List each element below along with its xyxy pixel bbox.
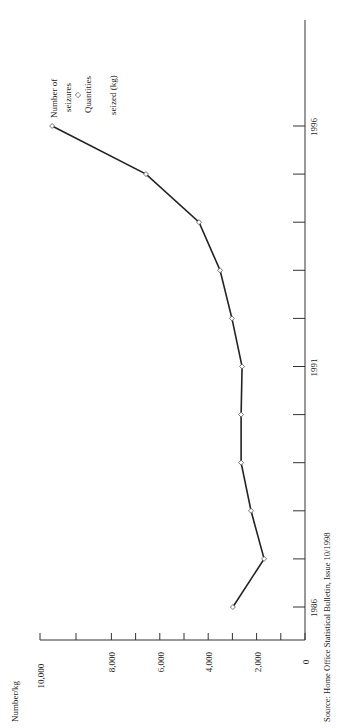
value-tick-label: 4,000	[204, 651, 214, 672]
series-line	[52, 126, 264, 607]
legend-line-3: Quantities	[83, 76, 93, 113]
category-tick-label: 1986	[309, 599, 319, 618]
value-tick-label: 0	[301, 659, 311, 664]
value-tick-label: 2,000	[253, 651, 263, 672]
data-point-diamond	[240, 364, 245, 369]
y-axis-title: Number/kg	[10, 681, 20, 722]
value-tick-label: 10,000	[36, 663, 46, 688]
legend-line-1: Number of	[49, 79, 59, 118]
legend-line-4: seized (kg)	[108, 75, 118, 115]
data-point-diamond	[218, 268, 223, 273]
data-point-diamond	[239, 460, 244, 465]
category-tick-label: 1996	[309, 118, 319, 137]
value-tick-label: 6,000	[156, 651, 166, 672]
data-point-diamond	[239, 412, 244, 417]
legend-marker-icon: ◇	[73, 92, 83, 98]
data-point-diamond	[249, 508, 254, 513]
value-tick-label: 8,000	[107, 651, 117, 672]
source-note: Source: Home Office Statistical Bulletin…	[322, 533, 332, 722]
legend-line-2: seizures	[63, 83, 73, 112]
data-point-diamond	[229, 316, 234, 321]
category-tick-label: 1991	[309, 359, 319, 377]
